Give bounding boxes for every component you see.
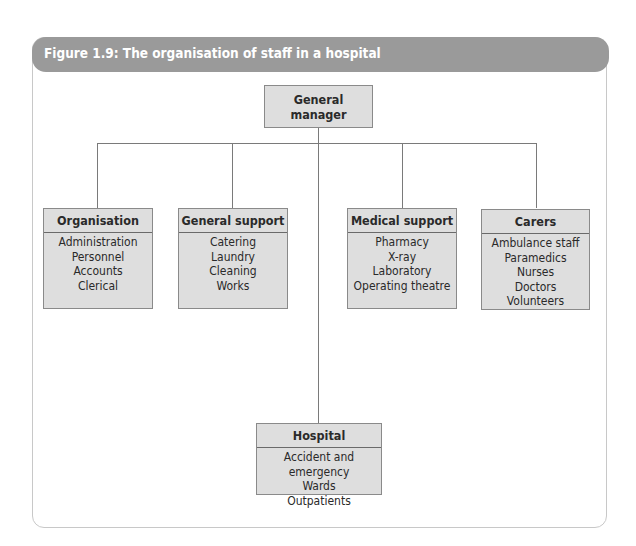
node-medical-support: Medical support Pharmacy X-ray Laborator… bbox=[347, 208, 457, 309]
node-item: Operating theatre bbox=[348, 279, 456, 294]
node-item: Outpatients bbox=[257, 494, 381, 509]
connector-organisation bbox=[97, 143, 98, 208]
node-title: General support bbox=[179, 209, 287, 233]
node-item: Cleaning bbox=[179, 264, 287, 279]
node-item: Laboratory bbox=[348, 264, 456, 279]
node-item: Clerical bbox=[44, 279, 152, 294]
node-carers: Carers Ambulance staff Paramedics Nurses… bbox=[481, 209, 590, 310]
node-title: Organisation bbox=[44, 209, 152, 233]
node-title: Carers bbox=[482, 210, 589, 234]
node-item: Accounts bbox=[44, 264, 152, 279]
node-title: Medical support bbox=[348, 209, 456, 233]
node-item: Personnel bbox=[44, 250, 152, 265]
node-item: Paramedics bbox=[482, 251, 589, 266]
connector-carers bbox=[536, 143, 537, 208]
figure-header: Figure 1.9: The organisation of staff in… bbox=[32, 37, 609, 72]
node-item: Accident and emergency bbox=[257, 450, 381, 479]
node-title: Hospital bbox=[257, 424, 381, 448]
node-item: Catering bbox=[179, 235, 287, 250]
figure-title: Figure 1.9: The organisation of staff in… bbox=[44, 45, 381, 61]
node-item: X-ray bbox=[348, 250, 456, 265]
node-label: General manager bbox=[265, 92, 372, 122]
node-general-manager: General manager bbox=[264, 85, 373, 128]
connector-root-trunk bbox=[318, 127, 319, 423]
node-item: Administration bbox=[44, 235, 152, 250]
connector-horizontal-bar bbox=[97, 143, 537, 144]
node-item: Wards bbox=[257, 479, 381, 494]
node-item: Volunteers bbox=[482, 294, 589, 309]
node-general-support: General support Catering Laundry Cleanin… bbox=[178, 208, 288, 309]
node-item: Pharmacy bbox=[348, 235, 456, 250]
node-organisation: Organisation Administration Personnel Ac… bbox=[43, 208, 153, 309]
node-item: Ambulance staff bbox=[482, 236, 589, 251]
connector-medical-support bbox=[402, 143, 403, 208]
connector-general-support bbox=[232, 143, 233, 208]
node-item: Doctors bbox=[482, 280, 589, 295]
node-hospital: Hospital Accident and emergency Wards Ou… bbox=[256, 423, 382, 495]
node-item: Works bbox=[179, 279, 287, 294]
node-item: Nurses bbox=[482, 265, 589, 280]
node-item: Laundry bbox=[179, 250, 287, 265]
